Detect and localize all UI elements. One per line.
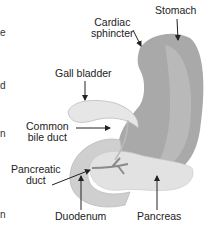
label-cardiac-sphincter: Cardiac sphincter bbox=[91, 17, 134, 39]
edge-fragment: n bbox=[0, 128, 6, 139]
label-common-bile-duct: Common bile duct bbox=[26, 121, 69, 143]
label-stomach: Stomach bbox=[155, 5, 196, 16]
label-cardiac-line2: sphincter bbox=[91, 28, 134, 39]
label-pancreatic-duct: Pancreatic duct bbox=[11, 164, 61, 186]
edge-fragment: d bbox=[0, 80, 6, 91]
label-duodenum: Duodenum bbox=[55, 211, 106, 222]
label-gall-bladder: Gall bladder bbox=[55, 68, 112, 79]
edge-fragment: e bbox=[0, 27, 6, 38]
label-pancreas: Pancreas bbox=[137, 211, 181, 222]
label-pancreatic-line2: duct bbox=[11, 175, 61, 186]
label-common-line2: bile duct bbox=[26, 132, 69, 143]
edge-fragment: n bbox=[0, 209, 6, 220]
